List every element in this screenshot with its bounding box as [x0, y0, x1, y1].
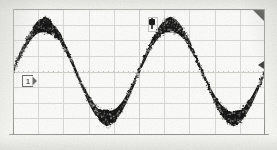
display-frame-top	[13, 9, 265, 10]
display-frame-bottom	[9, 134, 269, 135]
trigger-position-marker[interactable]	[149, 18, 155, 29]
waveform-layer	[13, 9, 265, 134]
trigger-position-marker-head	[149, 19, 155, 25]
display-frame-right	[264, 9, 265, 135]
display-frame-left	[13, 9, 14, 135]
channel-1-ground-marker[interactable]: 1	[22, 76, 37, 87]
channel-1-trace	[13, 9, 265, 134]
oscilloscope-screenshot: 1	[0, 0, 277, 150]
channel-1-ground-marker-label: 1	[22, 75, 33, 87]
oscilloscope-display[interactable]: 1	[13, 9, 265, 134]
